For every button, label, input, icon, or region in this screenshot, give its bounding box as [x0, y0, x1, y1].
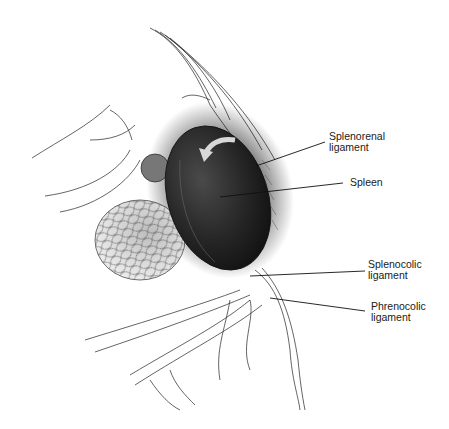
illustration-drawing	[0, 0, 449, 429]
label-spleen: Spleen	[350, 177, 383, 188]
label-line: ligament	[329, 142, 385, 153]
leader-splenocolic	[250, 271, 365, 276]
label-phrenocolic-ligament: Phrenocolic ligament	[371, 301, 426, 323]
label-splenocolic-ligament: Splenocolic ligament	[368, 259, 422, 281]
anatomical-illustration: Splenorenal ligament Spleen Splenocolic …	[0, 0, 449, 429]
label-line: ligament	[368, 270, 422, 281]
label-line: ligament	[371, 312, 426, 323]
label-splenorenal-ligament: Splenorenal ligament	[329, 131, 385, 153]
label-line: Spleen	[350, 177, 383, 188]
